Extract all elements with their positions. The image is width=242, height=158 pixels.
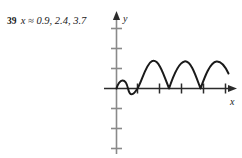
item-number: 39 [7, 16, 17, 26]
answer-line: 39x ≈ 0.9, 2.4, 3.7 [7, 11, 86, 27]
x-axis-arrow-icon [228, 85, 237, 92]
answer-text: x ≈ 0.9, 2.4, 3.7 [21, 15, 87, 26]
y-axis-arrow-icon [113, 11, 120, 20]
coordinate-plot: y x [100, 8, 240, 156]
graph-figure: y x [100, 8, 240, 156]
figure-page: 39x ≈ 0.9, 2.4, 3.7 [0, 0, 242, 158]
y-axis-label: y [122, 13, 128, 24]
x-axis-label: x [229, 96, 235, 107]
